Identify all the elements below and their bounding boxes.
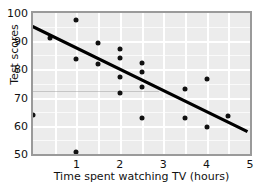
- x-axis-tick-label: 3: [160, 158, 167, 171]
- y-axis-tick-label: 50: [14, 148, 28, 161]
- x-axis-tick-label: 4: [203, 158, 210, 171]
- x-axis-tick-label: 5: [247, 158, 254, 171]
- y-axis-tick-label: 60: [14, 119, 28, 132]
- y-axis-title: Test scores: [8, 15, 21, 95]
- trend-line: [33, 13, 250, 154]
- x-axis-tick-label: 2: [116, 158, 123, 171]
- x-axis-title: Time spent watching TV (hours): [31, 170, 252, 183]
- scatter-chart: 1009080706050 Test scores Time spent wat…: [0, 0, 259, 187]
- plot-area: [31, 11, 252, 156]
- x-axis-tick-label: 1: [73, 158, 80, 171]
